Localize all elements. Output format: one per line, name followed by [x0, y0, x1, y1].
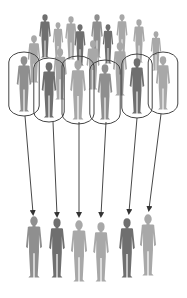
selected-person — [17, 56, 32, 111]
crowd-person — [53, 22, 63, 61]
population-group — [17, 14, 170, 119]
sampling-arrows — [25, 114, 161, 215]
selected-person — [98, 64, 113, 119]
arrow-icon — [53, 122, 57, 215]
crowd-person — [53, 48, 67, 99]
arrow-icon — [101, 122, 106, 215]
crowd-person — [39, 14, 50, 57]
crowd-person — [65, 16, 76, 59]
crowd-person — [75, 24, 86, 65]
sample-group — [26, 214, 156, 281]
diagram-canvas — [0, 0, 187, 298]
sample-person — [93, 222, 109, 281]
sample-person — [71, 220, 87, 281]
sample-person — [26, 216, 42, 277]
sample-person — [140, 214, 156, 275]
crowd-person — [103, 24, 113, 63]
arrow-icon — [129, 118, 137, 212]
arrow-icon — [149, 114, 161, 209]
sample-person — [119, 218, 135, 277]
selected-person — [70, 60, 86, 119]
sample-person — [49, 218, 65, 277]
crowd-person — [133, 19, 144, 62]
arrow-icon — [25, 116, 33, 213]
selected-person — [130, 58, 145, 113]
sampling-diagram — [0, 0, 187, 298]
